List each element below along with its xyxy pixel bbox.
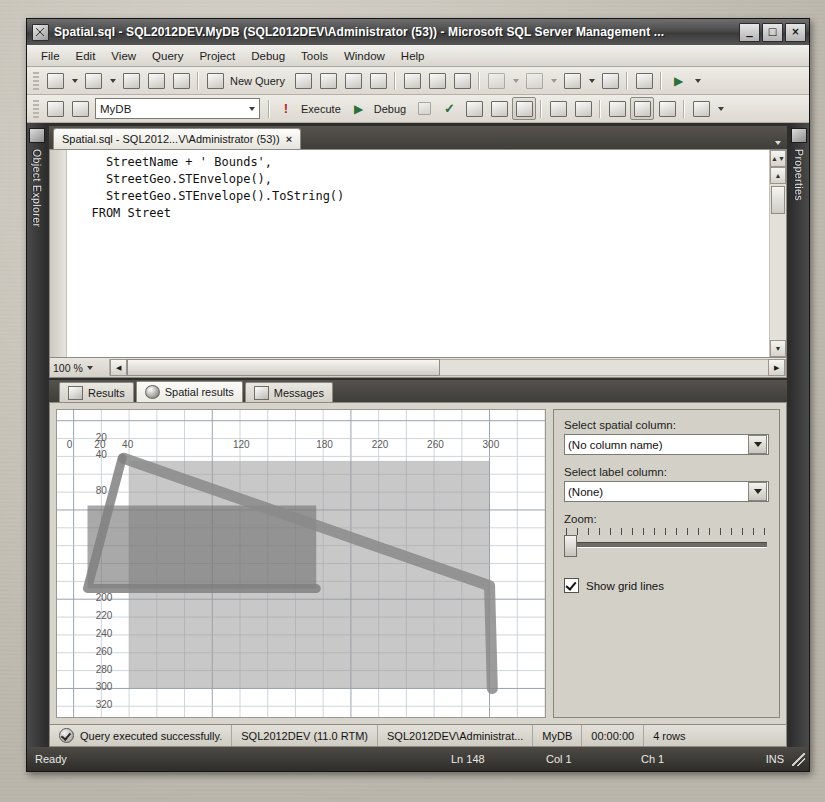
toolbar-grip[interactable]	[33, 71, 39, 90]
debug-label[interactable]: Debug	[372, 103, 411, 115]
include-client-statistics-button[interactable]	[571, 97, 595, 120]
parse-button[interactable]: ✓	[437, 97, 461, 120]
execute-button[interactable]: !	[274, 97, 298, 120]
open-file-button[interactable]	[119, 69, 143, 92]
spatial-column-select[interactable]: (No column name)	[564, 434, 769, 455]
properties-label[interactable]: Properties	[793, 149, 805, 201]
close-icon[interactable]: ×	[286, 133, 292, 145]
new-project-button[interactable]	[81, 69, 105, 92]
x-axis-tick-label: 180	[316, 439, 333, 450]
object-explorer-dock[interactable]: Object Explorer	[27, 123, 47, 747]
tab-messages[interactable]: Messages	[245, 382, 333, 402]
undo-dropdown[interactable]	[509, 69, 521, 92]
paste-button[interactable]	[450, 69, 474, 92]
resize-grip-icon[interactable]	[792, 753, 805, 766]
database-selector[interactable]: MyDB	[95, 98, 260, 119]
debug-button[interactable]: ▶	[347, 97, 371, 120]
menu-debug[interactable]: Debug	[243, 48, 293, 64]
editor-zoom-selector[interactable]: 100 %	[50, 362, 109, 374]
save-all-button[interactable]	[169, 69, 193, 92]
menu-project[interactable]: Project	[191, 48, 243, 64]
menu-edit[interactable]: Edit	[68, 48, 104, 64]
execute-label[interactable]: Execute	[299, 103, 346, 115]
chevron-down-icon[interactable]	[87, 366, 93, 370]
window-layout-button[interactable]	[632, 69, 656, 92]
new-query-label[interactable]: New Query	[228, 75, 290, 87]
scroll-thumb[interactable]	[771, 186, 785, 214]
comment-lines-button[interactable]	[689, 97, 713, 120]
object-explorer-label[interactable]: Object Explorer	[31, 149, 43, 227]
new-file-button[interactable]	[43, 69, 67, 92]
show-grid-lines-checkbox[interactable]	[564, 578, 579, 593]
minimize-button[interactable]: _	[739, 23, 760, 42]
toolbar-overflow[interactable]	[691, 69, 703, 92]
scroll-down-button[interactable]: ▼	[770, 340, 786, 357]
close-button[interactable]: ×	[785, 23, 806, 42]
menu-file[interactable]: File	[33, 48, 68, 64]
menu-query[interactable]: Query	[144, 48, 191, 64]
run-button[interactable]: ▶	[666, 69, 690, 92]
include-actual-plan-button[interactable]	[546, 97, 570, 120]
editor-horizontal-scrollbar[interactable]: ◀ ▶	[109, 359, 786, 376]
results-to-grid-button[interactable]	[512, 97, 536, 120]
copy-button[interactable]	[425, 69, 449, 92]
spatial-controls-panel: Select spatial column: (No column name) …	[553, 409, 780, 718]
navigate-forward-button[interactable]	[598, 69, 622, 92]
scroll-track[interactable]	[770, 184, 786, 340]
results-to-grid-button-2[interactable]	[630, 97, 654, 120]
results-to-file-button[interactable]	[655, 97, 679, 120]
save-button[interactable]	[144, 69, 168, 92]
stop-button[interactable]	[412, 97, 436, 120]
menu-window[interactable]: Window	[336, 48, 393, 64]
document-tab-dropdown[interactable]	[774, 141, 781, 145]
code-editor[interactable]: StreetName + ' Bounds', StreetGeo.STEnve…	[49, 149, 787, 358]
database-engine-query-button[interactable]	[291, 69, 315, 92]
new-query-button[interactable]	[203, 69, 227, 92]
chevron-down-icon[interactable]	[748, 435, 767, 454]
split-editor-button[interactable]: ▲▼	[770, 150, 786, 167]
document-tab-spatial-sql[interactable]: Spatial.sql - SQL2012...V\Administrator …	[53, 128, 301, 149]
spatial-plot-canvas[interactable]: 0204012018022026030020408020022024026028…	[57, 410, 545, 717]
editor-code-text[interactable]: StreetName + ' Bounds', StreetGeo.STEnve…	[67, 150, 769, 357]
connect-button[interactable]	[43, 97, 67, 120]
analysis-mdx-query-button[interactable]	[316, 69, 340, 92]
display-estimated-plan-button[interactable]	[462, 97, 486, 120]
scroll-up-button[interactable]: ▲	[770, 167, 786, 184]
toolbar-overflow[interactable]	[714, 97, 726, 120]
disconnect-button[interactable]	[68, 97, 92, 120]
zoom-slider-track[interactable]	[566, 542, 767, 548]
editor-vertical-scrollbar[interactable]: ▲▼ ▲ ▼	[769, 150, 786, 357]
new-project-dropdown[interactable]	[106, 69, 118, 92]
tab-spatial-results[interactable]: Spatial results	[136, 381, 243, 402]
undo-button[interactable]	[484, 69, 508, 92]
properties-dock[interactable]: Properties	[789, 123, 809, 747]
spatial-plot[interactable]: 0204012018022026030020408020022024026028…	[56, 409, 546, 718]
maximize-button[interactable]: □	[762, 23, 783, 42]
cut-button[interactable]	[400, 69, 424, 92]
zoom-slider-thumb[interactable]	[564, 535, 577, 557]
document-tab-strip: Spatial.sql - SQL2012...V\Administrator …	[49, 126, 787, 149]
toolbar-grip[interactable]	[33, 99, 39, 118]
label-column-select[interactable]: (None)	[564, 481, 769, 502]
chevron-down-icon[interactable]	[748, 482, 767, 501]
navigate-dropdown[interactable]	[585, 69, 597, 92]
scroll-right-button[interactable]: ▶	[768, 359, 785, 376]
results-to-text-button[interactable]	[605, 97, 629, 120]
menu-view[interactable]: View	[103, 48, 144, 64]
analysis-xmla-query-button[interactable]	[366, 69, 390, 92]
menu-help[interactable]: Help	[393, 48, 433, 64]
analysis-dmx-query-button[interactable]	[341, 69, 365, 92]
menu-tools[interactable]: Tools	[293, 48, 336, 64]
scroll-left-button[interactable]: ◀	[110, 359, 127, 376]
navigate-backward-button[interactable]	[560, 69, 584, 92]
show-grid-lines-label[interactable]: Show grid lines	[586, 580, 664, 592]
new-file-dropdown[interactable]	[68, 69, 80, 92]
query-options-button[interactable]	[487, 97, 511, 120]
zoom-slider[interactable]	[564, 528, 769, 560]
show-grid-lines-row[interactable]: Show grid lines	[564, 578, 769, 593]
scroll-thumb[interactable]	[127, 359, 440, 376]
redo-dropdown[interactable]	[547, 69, 559, 92]
chevron-down-icon[interactable]	[243, 99, 259, 118]
tab-results[interactable]: Results	[59, 382, 134, 402]
redo-button[interactable]	[522, 69, 546, 92]
